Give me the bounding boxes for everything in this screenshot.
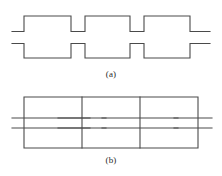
capacitor-4 — [174, 118, 212, 128]
figure-container: (a) (b) — [0, 0, 222, 176]
meander-lower-conductor — [12, 44, 210, 59]
caption-panel-a: (a) — [0, 69, 222, 79]
figure-drawing — [0, 0, 222, 176]
circuit-outer-loop — [24, 97, 198, 148]
meander-upper-conductor — [12, 16, 210, 32]
panel-a-castellated-meander — [12, 16, 210, 58]
panel-b-equivalent-circuit — [12, 97, 212, 148]
caption-panel-b: (b) — [0, 155, 222, 165]
